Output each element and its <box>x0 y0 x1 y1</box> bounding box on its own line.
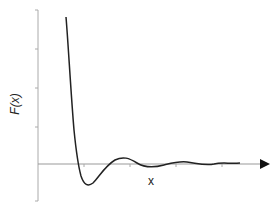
data-series-line <box>66 17 240 185</box>
y-axis-label: F(x) <box>7 93 23 115</box>
chart-plot-area <box>0 0 277 213</box>
x-axis-label: x <box>148 174 154 188</box>
x-axis-arrow-icon <box>260 159 270 169</box>
